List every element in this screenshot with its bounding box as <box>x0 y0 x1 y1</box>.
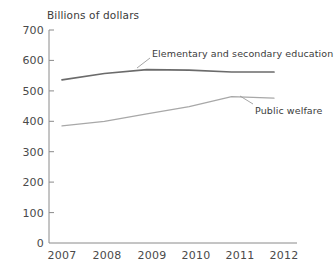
series-line-education <box>62 70 274 80</box>
series-line-welfare <box>62 97 274 126</box>
leader-line-education <box>137 58 150 68</box>
y-axis-ticks <box>49 30 54 213</box>
chart-plot-area <box>0 0 336 273</box>
chart-figure: Billions of dollars 700 600 500 400 300 … <box>0 0 336 273</box>
